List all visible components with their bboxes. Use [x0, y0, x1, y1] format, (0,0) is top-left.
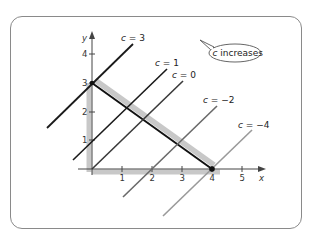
label-cneg4: c = −4 — [238, 120, 270, 130]
label-c1: c = 1 — [155, 58, 179, 68]
vertex-point-0-3 — [90, 81, 95, 86]
y-axis-arrow-icon — [89, 31, 95, 39]
diagram-canvas: 1 2 3 4 5 x 1 2 3 4 y c = 3 c = 1 c = 0 … — [0, 0, 314, 242]
y-tick-1: 1 — [82, 135, 87, 145]
label-c0: c = 0 — [172, 70, 196, 80]
x-tick-5: 5 — [240, 173, 245, 183]
label-c3: c = 3 — [121, 33, 145, 43]
label-cneg2: c = −2 — [203, 95, 234, 105]
level-line-c0 — [92, 81, 183, 169]
level-line-cneg2 — [123, 106, 217, 197]
x-axis-arrow-icon — [258, 166, 266, 172]
y-axis-label: y — [81, 33, 88, 43]
constraint-boundary-line — [92, 83, 212, 169]
x-tick-4: 4 — [210, 173, 215, 183]
x-tick-3: 3 — [180, 173, 185, 183]
callout-c-increases: c increases — [200, 40, 263, 62]
callout-text: c increases — [213, 48, 264, 58]
y-tick-2: 2 — [82, 107, 87, 117]
x-tick-2: 2 — [150, 173, 155, 183]
vertex-point-4-0 — [209, 166, 215, 172]
y-tick-4: 4 — [82, 49, 87, 59]
x-axis-label: x — [258, 173, 265, 183]
x-tick-1: 1 — [120, 173, 125, 183]
y-tick-3: 3 — [82, 78, 87, 88]
